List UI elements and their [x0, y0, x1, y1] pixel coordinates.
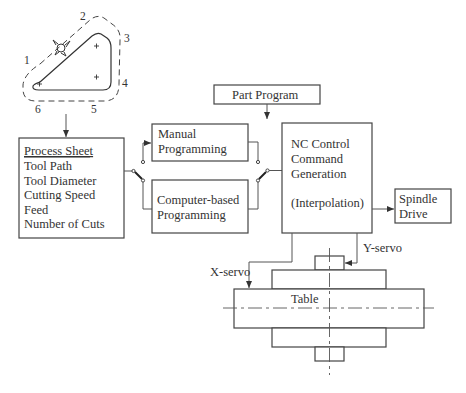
nc-flow-diagram: 1 2 3 4 5 6 Process Sheet Tool Path Tool… [0, 0, 466, 393]
machine-table-assembly: Table [223, 248, 434, 375]
cutter-tool-icon [53, 40, 70, 56]
nc-control-box: NC Control Command Generation (Interpola… [282, 123, 372, 233]
manual-programming-line1: Manual [158, 127, 197, 141]
y-servo-label: Y-servo [363, 241, 402, 255]
process-sheet-title: Process Sheet [24, 144, 94, 158]
workpiece-outline [33, 33, 111, 90]
point-label-5: 5 [91, 103, 97, 115]
part-program-label: Part Program [232, 88, 299, 102]
manual-programming-box: Manual Programming [152, 124, 248, 161]
point-label-3: 3 [124, 32, 130, 44]
table-body [234, 289, 424, 328]
process-sheet-item-feed: Feed [24, 203, 49, 217]
point-label-2: 2 [80, 10, 86, 22]
hole-center-marks [37, 44, 99, 87]
right-selector-switch [248, 142, 282, 209]
spindle-drive-line1: Spindle [399, 192, 438, 206]
x-servo-label: X-servo [210, 265, 250, 279]
computer-programming-line2: Programming [157, 208, 226, 222]
nc-control-line1: NC Control [291, 137, 350, 151]
point-label-4: 4 [122, 77, 128, 89]
process-sheet-item-cutting-speed: Cutting Speed [24, 188, 96, 202]
part-program-box: Part Program [214, 85, 320, 104]
tool-path-sketch: 1 2 3 4 5 6 [23, 10, 130, 115]
point-label-6: 6 [35, 103, 41, 115]
spindle-drive-line2: Drive [399, 207, 428, 221]
point-label-1: 1 [24, 54, 30, 66]
process-sheet-item-number-of-cuts: Number of Cuts [24, 217, 105, 231]
spindle-drive-box: Spindle Drive [395, 189, 451, 223]
process-sheet-item-tool-path: Tool Path [24, 159, 73, 173]
tool-path-dashed-outline [23, 16, 120, 101]
process-sheet-box: Process Sheet Tool Path Tool Diameter Cu… [19, 138, 124, 238]
table-label: Table [291, 292, 319, 306]
y-servo-wire [345, 233, 357, 263]
left-selector-switch [124, 143, 152, 209]
computer-programming-line1: Computer-based [157, 193, 240, 207]
nc-control-line4: (Interpolation) [291, 196, 364, 210]
saddle-upper [272, 270, 386, 289]
nc-control-line3: Generation [291, 167, 347, 181]
computer-based-programming-box: Computer-based Programming [152, 180, 248, 233]
nc-control-line2: Command [291, 152, 344, 166]
manual-programming-line2: Programming [158, 142, 227, 156]
saddle-lower [272, 328, 386, 347]
process-sheet-item-tool-diameter: Tool Diameter [24, 174, 97, 188]
